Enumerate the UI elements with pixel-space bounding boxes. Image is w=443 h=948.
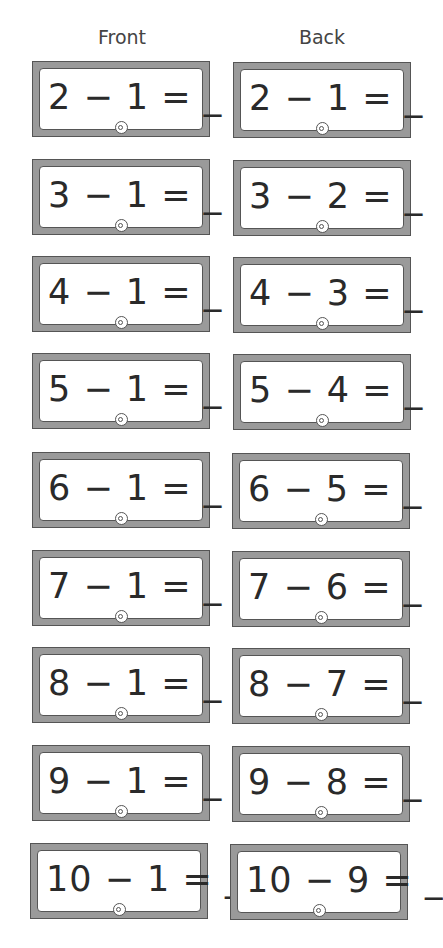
front-card-4: 5 − 1 = _	[32, 353, 210, 429]
back-card-5: 6 − 5 = _	[232, 453, 410, 529]
back-card-2: 3 − 2 = _	[233, 160, 411, 236]
hole-icon	[115, 121, 128, 134]
equation: 4 − 1 = _	[48, 275, 222, 310]
hole-icon	[316, 220, 329, 233]
hole-icon	[115, 805, 128, 818]
hole-icon	[315, 611, 328, 624]
back-card-8: 9 − 8 = _	[232, 746, 410, 822]
front-column-header: Front	[32, 26, 212, 48]
equation: 5 − 1 = _	[48, 372, 222, 407]
equation: 10 − 9 = _	[246, 863, 443, 898]
equation: 10 − 1 = _	[46, 862, 243, 897]
back-card-1: 2 − 1 = _	[233, 62, 411, 138]
hole-icon	[115, 610, 128, 623]
equation: 9 − 8 = _	[248, 765, 422, 800]
equation: 3 − 1 = _	[48, 178, 222, 213]
front-card-3: 4 − 1 = _	[32, 256, 210, 332]
equation: 9 − 1 = _	[48, 764, 222, 799]
front-card-8: 9 − 1 = _	[32, 745, 210, 821]
back-card-6: 7 − 6 = _	[232, 551, 410, 627]
equation: 7 − 6 = _	[248, 570, 422, 605]
back-card-3: 4 − 3 = _	[233, 257, 411, 333]
hole-icon	[115, 413, 128, 426]
front-card-2: 3 − 1 = _	[32, 159, 210, 235]
equation: 6 − 1 = _	[48, 471, 222, 506]
back-card-9: 10 − 9 = _	[230, 844, 408, 920]
equation: 2 − 1 = _	[249, 81, 423, 116]
hole-icon	[316, 122, 329, 135]
hole-icon	[115, 219, 128, 232]
equation: 5 − 4 = _	[249, 373, 423, 408]
equation: 7 − 1 = _	[48, 569, 222, 604]
equation: 6 − 5 = _	[248, 472, 422, 507]
front-card-5: 6 − 1 = _	[32, 452, 210, 528]
hole-icon	[315, 513, 328, 526]
equation: 3 − 2 = _	[249, 179, 423, 214]
hole-icon	[316, 414, 329, 427]
hole-icon	[115, 707, 128, 720]
front-card-1: 2 − 1 = _	[32, 61, 210, 137]
hole-icon	[115, 316, 128, 329]
hole-icon	[313, 904, 326, 917]
back-column-header: Back	[232, 26, 412, 48]
hole-icon	[115, 512, 128, 525]
back-card-4: 5 − 4 = _	[233, 354, 411, 430]
equation: 4 − 3 = _	[249, 276, 423, 311]
hole-icon	[316, 317, 329, 330]
hole-icon	[315, 806, 328, 819]
back-card-7: 8 − 7 = _	[232, 648, 410, 724]
equation: 8 − 1 = _	[48, 666, 222, 701]
equation: 2 − 1 = _	[48, 80, 222, 115]
hole-icon	[315, 708, 328, 721]
front-card-9: 10 − 1 = _	[30, 843, 208, 919]
equation: 8 − 7 = _	[248, 667, 422, 702]
front-card-6: 7 − 1 = _	[32, 550, 210, 626]
hole-icon	[113, 903, 126, 916]
front-card-7: 8 − 1 = _	[32, 647, 210, 723]
